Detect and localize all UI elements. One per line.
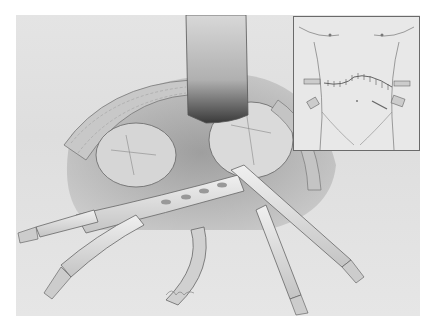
- torso-outline: [294, 17, 419, 150]
- nipple-right: [381, 34, 384, 37]
- drain-site-left-lower: [307, 97, 320, 109]
- sutures: [328, 73, 388, 90]
- drain-site-right-upper: [394, 81, 410, 86]
- drain-connector: [290, 295, 308, 315]
- drain-stub: [372, 101, 387, 109]
- inset-torso-diagram: [293, 16, 420, 151]
- drain-site-left-upper: [304, 79, 320, 84]
- drain-tube-left-upper: [36, 210, 98, 237]
- figure-caption: [60, 322, 390, 332]
- retractor-blade: [186, 15, 248, 123]
- surgical-illustration: [16, 15, 420, 316]
- umbilicus: [356, 100, 358, 102]
- nipple-left: [329, 34, 332, 37]
- drain-site-right-lower: [391, 95, 405, 107]
- bowel-loop-left: [96, 123, 176, 187]
- drain-connector: [18, 227, 38, 243]
